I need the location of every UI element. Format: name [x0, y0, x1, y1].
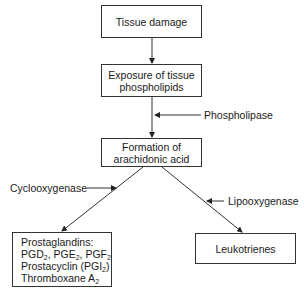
node-exposure-phospholipids: Exposure of tissue phospholipids: [101, 64, 202, 97]
enzyme-phospholipase: Phospholipase: [204, 109, 273, 121]
node-prostaglandins: Prostaglandins: PGD2, PGE2, PGF2 Prostac…: [12, 232, 112, 287]
enzyme-cyclooxygenase: Cyclooxygenase: [10, 182, 87, 194]
node-tissue-damage-label: Tissue damage: [116, 16, 187, 28]
node-tissue-damage: Tissue damage: [101, 5, 202, 38]
node-arachidonic-acid: Formation of arachidonic acid: [101, 138, 202, 167]
node-prostaglandins-line3: Prostacyclin (PGI2): [21, 260, 110, 272]
node-exposure-line2: phospholipids: [119, 81, 183, 93]
node-prostaglandins-line2: PGD2, PGE2, PGF2: [21, 248, 111, 260]
node-leukotrienes: Leukotrienes: [195, 233, 296, 264]
node-arachidonic-line2: arachidonic acid: [114, 153, 190, 165]
node-prostaglandins-line4: Thromboxane A2: [21, 272, 99, 284]
arrow-arachidonic-to-prostaglandins: [62, 167, 143, 231]
enzyme-lipooxygenase: Lipooxygenase: [228, 195, 299, 207]
node-leukotrienes-label: Leukotrienes: [215, 243, 275, 255]
node-arachidonic-line1: Formation of: [122, 141, 181, 153]
node-prostaglandins-line1: Prostaglandins:: [21, 236, 93, 248]
node-exposure-line1: Exposure of tissue: [108, 69, 194, 81]
